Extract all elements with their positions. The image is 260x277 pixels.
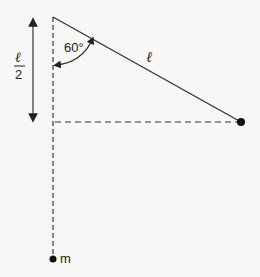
mass-label: m: [60, 251, 71, 266]
pendulum-string: [53, 17, 241, 122]
string-length-label: ℓ: [146, 48, 152, 66]
angle-label: 60°: [64, 40, 84, 55]
bob-mass-m: [50, 256, 57, 263]
pendulum-diagram: 60° ℓ ℓ 2 m: [0, 0, 260, 277]
half-length-denominator: 2: [15, 67, 22, 82]
half-length-numerator: ℓ: [15, 49, 21, 65]
bob-horizontal-position: [237, 118, 245, 126]
